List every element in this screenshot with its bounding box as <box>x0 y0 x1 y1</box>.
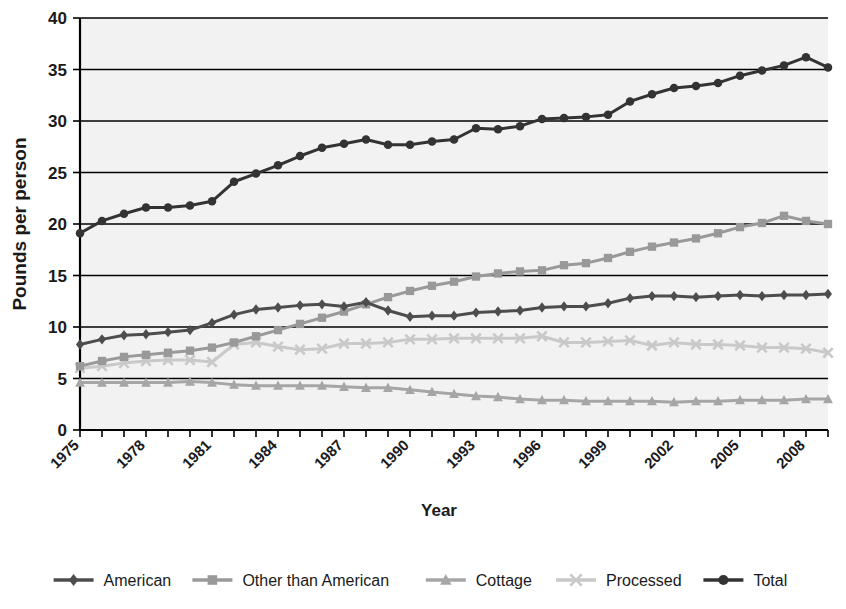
marker-circle <box>98 217 107 226</box>
square-marker <box>274 326 282 334</box>
y-tick-label: 5 <box>58 370 67 389</box>
circle-marker <box>120 209 129 218</box>
circle-marker <box>384 140 393 149</box>
square-marker <box>736 223 744 231</box>
square-marker <box>318 314 326 322</box>
square-marker <box>472 272 480 280</box>
x-tick-label: 1981 <box>179 436 215 472</box>
square-marker <box>76 362 84 370</box>
square-marker <box>428 282 436 290</box>
circle-marker <box>472 124 481 133</box>
y-tick-label: 30 <box>48 112 67 131</box>
circle-marker <box>714 79 723 88</box>
circle-marker <box>758 66 767 75</box>
diamond-marker <box>69 574 78 586</box>
marker-diamond <box>69 574 78 586</box>
circle-marker <box>670 84 679 93</box>
circle-marker <box>252 169 261 178</box>
square-marker <box>758 219 766 227</box>
marker-square <box>758 219 766 227</box>
legend-label: Other than American <box>242 572 389 589</box>
marker-square <box>692 234 700 242</box>
marker-square <box>230 338 238 346</box>
circle-marker <box>538 115 547 124</box>
legend-item-american[interactable]: American <box>54 572 172 589</box>
circle-marker <box>274 161 283 170</box>
x-axis-tick-labels: 1975197819811984198719901993199619992002… <box>47 436 809 472</box>
circle-marker <box>648 90 657 99</box>
square-marker <box>450 278 458 286</box>
marker-circle <box>120 209 129 218</box>
marker-square <box>318 314 326 322</box>
marker-square <box>802 217 810 225</box>
marker-square <box>780 212 788 220</box>
square-marker <box>582 259 590 267</box>
x-axis-title: Year <box>421 501 457 520</box>
marker-circle <box>142 203 151 212</box>
x-tick-label: 2008 <box>773 436 809 472</box>
legend-item-total[interactable]: Total <box>703 572 787 589</box>
circle-marker <box>76 229 85 238</box>
legend-label: Total <box>753 572 787 589</box>
marker-square <box>516 267 524 275</box>
chart-legend: AmericanOther than AmericanCottageProces… <box>54 572 788 589</box>
square-marker <box>692 234 700 242</box>
marker-circle <box>718 575 728 585</box>
marker-square <box>208 575 218 585</box>
x-tick-label: 1975 <box>47 436 83 472</box>
marker-circle <box>450 135 459 144</box>
x-tick-label: 1978 <box>113 436 149 472</box>
marker-square <box>494 269 502 277</box>
marker-circle <box>780 61 789 70</box>
legend-item-other-than-american[interactable]: Other than American <box>192 572 389 589</box>
y-tick-label: 10 <box>48 318 67 337</box>
x-tick-label: 1990 <box>377 436 413 472</box>
marker-square <box>164 349 172 357</box>
circle-marker <box>340 139 349 148</box>
circle-marker <box>692 82 701 91</box>
circle-marker <box>802 53 811 62</box>
marker-square <box>736 223 744 231</box>
circle-marker <box>428 137 437 146</box>
marker-square <box>626 248 634 256</box>
marker-square <box>670 238 678 246</box>
legend-item-cottage[interactable]: Cottage <box>426 572 532 589</box>
marker-square <box>76 362 84 370</box>
legend-item-processed[interactable]: Processed <box>556 572 682 589</box>
y-axis-title: Pounds per person <box>9 137 30 310</box>
x-tick-label: 2005 <box>707 436 743 472</box>
marker-circle <box>208 197 217 206</box>
marker-square <box>120 353 128 361</box>
marker-square <box>406 287 414 295</box>
square-marker <box>208 575 218 585</box>
square-marker <box>296 320 304 328</box>
marker-square <box>538 266 546 274</box>
marker-circle <box>824 63 833 72</box>
circle-marker <box>362 135 371 144</box>
marker-square <box>604 254 612 262</box>
marker-circle <box>384 140 393 149</box>
square-marker <box>230 338 238 346</box>
square-marker <box>406 287 414 295</box>
circle-marker <box>186 201 195 210</box>
square-marker <box>560 261 568 269</box>
marker-circle <box>626 97 635 106</box>
circle-marker <box>208 197 217 206</box>
square-marker <box>252 332 260 340</box>
marker-circle <box>340 139 349 148</box>
marker-circle <box>692 82 701 91</box>
square-marker <box>120 353 128 361</box>
marker-circle <box>758 66 767 75</box>
y-tick-label: 40 <box>48 9 67 28</box>
marker-circle <box>406 140 415 149</box>
marker-circle <box>802 53 811 62</box>
marker-square <box>428 282 436 290</box>
marker-circle <box>230 178 239 187</box>
square-marker <box>824 220 832 228</box>
square-marker <box>516 267 524 275</box>
marker-circle <box>494 125 503 134</box>
marker-square <box>824 220 832 228</box>
marker-circle <box>648 90 657 99</box>
x-tick-label: 2002 <box>641 436 677 472</box>
y-tick-label: 0 <box>58 421 67 440</box>
